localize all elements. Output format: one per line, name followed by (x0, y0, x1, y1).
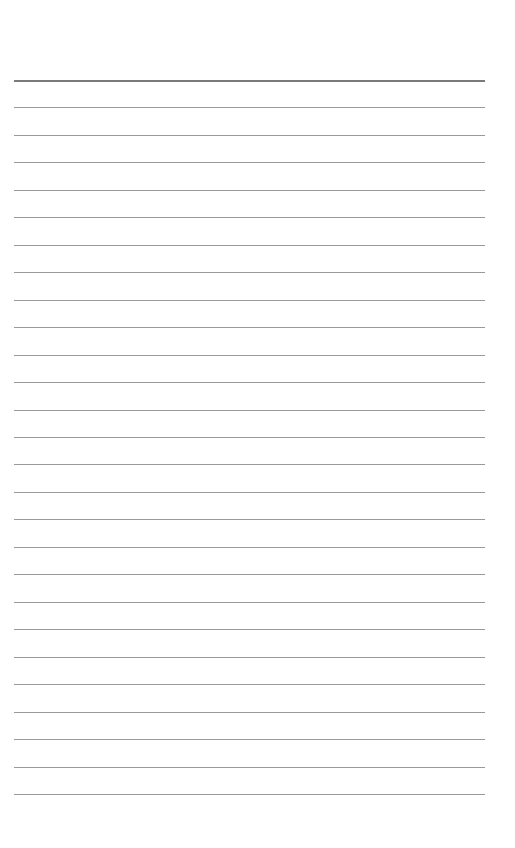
ruled-line (14, 574, 485, 575)
ruled-line (14, 217, 485, 218)
ruled-line (14, 135, 485, 136)
ruled-line (14, 712, 485, 713)
ruled-line (14, 547, 485, 548)
ruled-line (14, 272, 485, 273)
ruled-line (14, 245, 485, 246)
ruled-line (14, 657, 485, 658)
ruled-line (14, 162, 485, 163)
ruled-line (14, 327, 485, 328)
ruled-line (14, 492, 485, 493)
ruled-line (14, 684, 485, 685)
ruled-line (14, 767, 485, 768)
ruled-line (14, 794, 485, 795)
ruled-line (14, 629, 485, 630)
ruled-line (14, 355, 485, 356)
ruled-line (14, 739, 485, 740)
ruled-line (14, 519, 485, 520)
ruled-line (14, 300, 485, 301)
ruled-line (14, 437, 485, 438)
ruled-line (14, 410, 485, 411)
ruled-line (14, 382, 485, 383)
ruled-line (14, 190, 485, 191)
ruled-line (14, 80, 485, 82)
ruled-line (14, 602, 485, 603)
ruled-line (14, 464, 485, 465)
ruled-line (14, 107, 485, 108)
